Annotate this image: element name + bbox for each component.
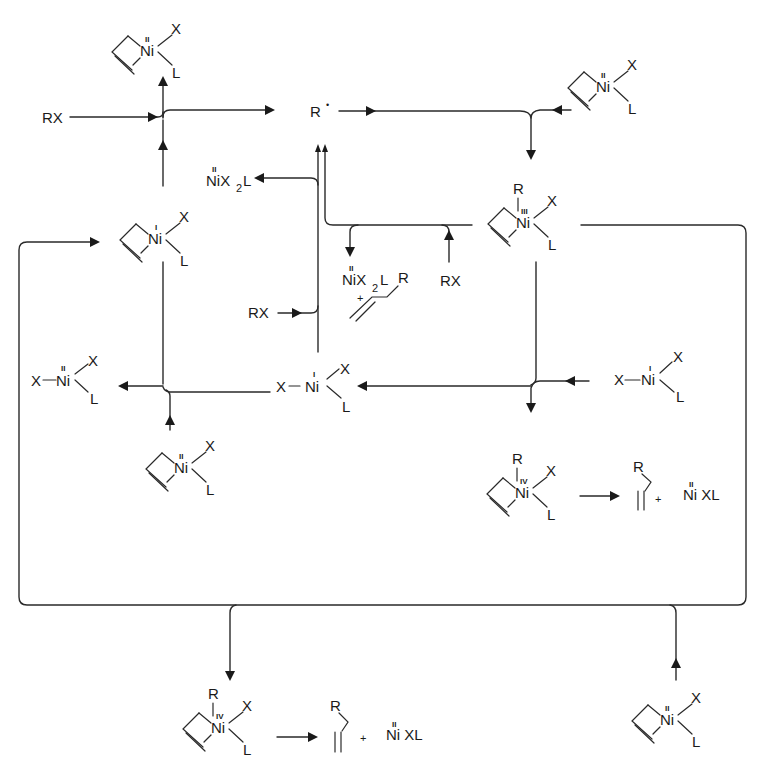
x-ligand: X: [205, 437, 215, 454]
rx-reagent-center: RX: [440, 272, 461, 289]
merge-down-to-ni-iii: [531, 110, 571, 153]
r-substituent: R: [208, 685, 219, 702]
arrow-to-nix2l-products: [350, 225, 358, 250]
species-allyl-ni-ii-bottom-right: Ni II X L: [632, 689, 701, 750]
oxidation-state: II: [145, 35, 149, 44]
plus-sign: +: [655, 493, 661, 505]
nixl-text: Ni XL: [683, 486, 720, 503]
species-nix2l-upper: II NiX 2 L: [206, 165, 251, 194]
oxidation-state: I: [313, 370, 315, 379]
nix2l-tail: L: [243, 172, 251, 189]
rx-reagent-top-left: RX: [42, 109, 63, 126]
ni-label: Ni: [148, 230, 162, 247]
oxidation-state: II: [61, 364, 65, 373]
species-x-ni-i-xl-right: X Ni I X L: [614, 348, 684, 405]
x-ligand: X: [546, 462, 556, 479]
arrow-to-radical: [163, 110, 270, 117]
x-ligand-left: X: [614, 371, 624, 388]
x-ligand: X: [171, 20, 181, 37]
r-substituent: R: [512, 450, 523, 467]
species-allyl-ni-ii-lower-left: Ni II X L: [146, 437, 215, 498]
arrow-down-to-ni-iv-bottom: [230, 605, 236, 675]
nickel-catalytic-cycle-diagram: Ni II X L RX R • Ni II X L: [0, 0, 769, 776]
line-to-left-junction: [163, 387, 270, 392]
r-substituent: R: [398, 269, 409, 286]
species-allyl-ni-iv-bottom: Ni IV R X L: [183, 685, 252, 758]
oxidation-state: II: [179, 452, 183, 461]
x-ligand: X: [627, 56, 637, 73]
ni-label: Ni: [56, 372, 70, 389]
x-ligand: X: [242, 697, 252, 714]
ni-label: Ni: [515, 484, 529, 501]
l-ligand: L: [547, 506, 555, 523]
x-ligand-left: X: [276, 378, 286, 395]
x-ligand-left: X: [31, 372, 41, 389]
nix2l-text: NiX: [206, 172, 230, 189]
ni-label: Ni: [516, 214, 530, 231]
product-bottom: R + II Ni XL: [330, 697, 423, 752]
species-nix2l-products: II NiX 2 L + R: [342, 264, 409, 321]
ni-label: Ni: [211, 719, 225, 736]
ni-label: Ni: [305, 378, 319, 395]
species-allyl-ni-ii-top-right: Ni II X L: [568, 56, 637, 117]
radical-label: R: [310, 103, 321, 120]
product-right: R + II Ni XL: [633, 458, 720, 510]
plus-sign: +: [357, 292, 363, 304]
rx-input-to-ni-iii: [442, 225, 449, 262]
species-allyl-ni-iv-right: Ni IV R X L: [487, 450, 556, 523]
vertical-line-right: [325, 150, 472, 225]
l-ligand: L: [90, 390, 98, 407]
l-ligand: L: [628, 100, 636, 117]
r-substituent: R: [513, 180, 524, 197]
species-x-ni-i-xl-center: X Ni I X L: [276, 360, 350, 415]
r-substituent: R: [330, 697, 341, 714]
plus-sign: +: [360, 732, 366, 744]
l-ligand: L: [676, 388, 684, 405]
species-allyl-ni-ii-top-left: Ni II X L: [112, 20, 181, 81]
ni-label: Ni: [174, 459, 188, 476]
l-ligand: L: [172, 64, 180, 81]
oxidation-state: IV: [520, 477, 528, 486]
oxidation-state: II: [601, 71, 605, 80]
oxidation-state: I: [649, 364, 651, 373]
l-ligand: L: [180, 252, 188, 269]
x-ligand: X: [179, 208, 189, 225]
nixl-text: Ni XL: [386, 726, 423, 743]
species-allyl-ni-iii-r: Ni III R X L: [488, 180, 557, 253]
x-ligand: X: [673, 348, 683, 365]
nix2l-subscript: 2: [372, 282, 378, 294]
l-ligand: L: [206, 481, 214, 498]
x-ligand: X: [340, 360, 350, 377]
oxidation-state: I: [155, 223, 157, 232]
arrow-to-nix2l-upper: [258, 178, 318, 185]
x-ni-i-into-junction: [531, 381, 589, 405]
l-ligand: L: [342, 398, 350, 415]
ni-iii-down-line: [531, 262, 536, 385]
nix2l-text: NiX: [342, 271, 366, 288]
species-allyl-ni-i: Ni I X L: [120, 208, 189, 269]
ni-label: Ni: [660, 711, 674, 728]
x-ligand: X: [547, 192, 557, 209]
arrow-up-from-ni-ii-bottom-right: [670, 605, 676, 680]
radical-dot: •: [326, 100, 329, 110]
x-ligand: X: [88, 352, 98, 369]
r-substituent: R: [633, 458, 644, 475]
oxidation-state: III: [521, 207, 528, 216]
species-x-ni-ii-xl: X Ni II X L: [31, 352, 98, 407]
oxidation-state: II: [665, 704, 669, 713]
nix2l-tail: L: [380, 271, 388, 288]
rx-reagent-left: RX: [248, 304, 269, 321]
x-ligand: X: [691, 689, 701, 706]
l-ligand: L: [548, 236, 556, 253]
ni-label: Ni: [140, 42, 154, 59]
l-ligand: L: [692, 733, 700, 750]
l-ligand: L: [243, 741, 251, 758]
ni-label: Ni: [641, 371, 655, 388]
oxidation-state: IV: [216, 712, 224, 721]
radical-r: R •: [310, 100, 329, 120]
ni-label: Ni: [596, 78, 610, 95]
nix2l-subscript: 2: [236, 182, 242, 194]
